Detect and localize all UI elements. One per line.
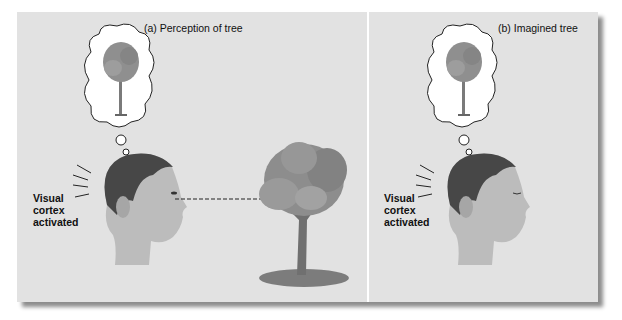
visual-cortex-label-b: Visual cortex activated (384, 192, 430, 228)
figure-panel: (a) Perception of tree Visual cortex act… (17, 12, 598, 302)
caption-imagined: (b) Imagined tree (498, 22, 578, 34)
real-tree-icon (249, 140, 369, 290)
imagined-tree-icon-b (442, 38, 486, 118)
head-imagining-icon (420, 145, 530, 265)
visual-cortex-label-a: Visual cortex activated (33, 192, 79, 228)
imagined-tree-icon-a (99, 38, 143, 118)
head-seeing-icon (77, 145, 187, 265)
